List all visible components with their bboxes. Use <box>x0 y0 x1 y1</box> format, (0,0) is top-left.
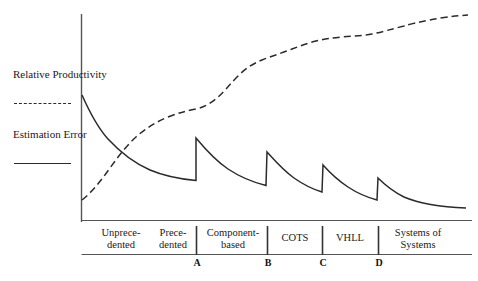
category-label-vhll: VHLL <box>325 232 375 244</box>
legend-swatch-dashed-line <box>14 103 71 104</box>
category-label-systems-of-systems: Systems of Systems <box>382 227 454 250</box>
chart-figure: Relative Productivity Estimation Error U… <box>0 0 478 281</box>
tick-letter-a: A <box>190 257 204 268</box>
legend-label-estimation-error: Estimation Error <box>13 128 87 141</box>
tick-letter-b: B <box>261 257 275 268</box>
legend-entry-estimation-error: Estimation Error <box>13 128 87 141</box>
category-label-cots: COTS <box>270 232 320 244</box>
category-label-precedented: Prece- dented <box>148 227 198 250</box>
legend-label-relative-productivity: Relative Productivity <box>13 68 107 81</box>
category-label-unprecedented: Unprece- dented <box>86 227 156 250</box>
series-estimation-error <box>82 95 466 208</box>
legend-entry-relative-productivity: Relative Productivity <box>13 68 107 81</box>
tick-letter-c: C <box>316 257 330 268</box>
category-label-component-based: Component- based <box>198 227 268 250</box>
series-relative-productivity <box>82 15 468 200</box>
legend-swatch-solid-line <box>14 163 71 164</box>
tick-letter-d: D <box>372 257 386 268</box>
